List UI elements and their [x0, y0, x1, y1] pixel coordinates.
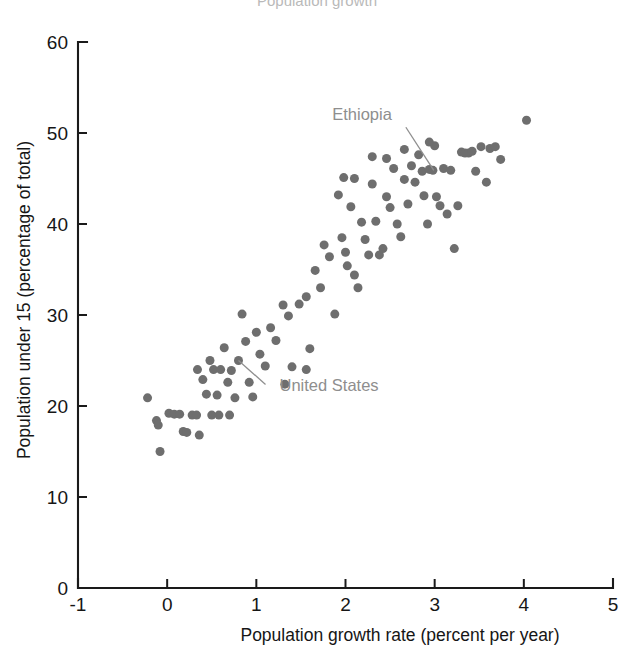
y-tick-label: 60 — [47, 32, 68, 53]
data-point — [316, 283, 325, 292]
data-point — [252, 328, 261, 337]
data-point — [241, 337, 250, 346]
data-point — [337, 233, 346, 242]
data-point — [468, 147, 477, 156]
data-point — [213, 391, 222, 400]
data-point — [453, 201, 462, 210]
chart-title-group: Population growth — [257, 0, 377, 9]
data-point — [302, 365, 311, 374]
annotation-label: United States — [280, 376, 379, 394]
y-axis-ticks: 0102030405060 — [47, 32, 87, 599]
x-axis-title: Population growth rate (percent per year… — [240, 625, 559, 645]
x-axis-ticks: -1012345 — [70, 579, 619, 615]
data-point — [343, 261, 352, 270]
data-point — [425, 138, 434, 147]
data-point — [450, 244, 459, 253]
data-point — [223, 378, 232, 387]
data-point — [364, 250, 373, 259]
data-point — [436, 201, 445, 210]
data-point — [227, 366, 236, 375]
chart-title: Population growth — [257, 0, 377, 9]
annotation-label: Ethiopia — [332, 105, 392, 123]
data-point — [443, 209, 452, 218]
data-point — [396, 232, 405, 241]
data-point — [288, 362, 297, 371]
data-point — [361, 235, 370, 244]
data-point — [330, 310, 339, 319]
data-point — [350, 174, 359, 183]
y-axis-title: Population under 15 (percentage of total… — [14, 141, 34, 459]
data-point — [220, 343, 229, 352]
data-point — [175, 410, 184, 419]
data-points-group — [143, 116, 531, 456]
y-tick-label: 30 — [47, 305, 68, 326]
x-tick-label: 3 — [429, 594, 440, 615]
x-tick-label: 5 — [608, 594, 619, 615]
data-point — [371, 217, 380, 226]
y-tick-label: 0 — [57, 578, 68, 599]
data-point — [192, 411, 201, 420]
x-tick-label: 0 — [162, 594, 173, 615]
data-point — [305, 344, 314, 353]
data-point — [419, 191, 428, 200]
data-point — [496, 155, 505, 164]
data-point — [357, 218, 366, 227]
data-point — [368, 179, 377, 188]
data-point — [198, 375, 207, 384]
data-point — [346, 202, 355, 211]
data-point — [339, 173, 348, 182]
data-point — [202, 390, 211, 399]
chart-canvas: Population growth -1012345 0102030405060… — [0, 0, 634, 652]
y-tick-label: 50 — [47, 123, 68, 144]
x-tick-label: -1 — [70, 594, 87, 615]
data-point — [432, 192, 441, 201]
y-tick-label: 40 — [47, 214, 68, 235]
data-point — [238, 310, 247, 319]
data-point — [403, 199, 412, 208]
data-point — [400, 175, 409, 184]
data-point — [446, 166, 455, 175]
data-point — [156, 447, 165, 456]
data-point — [216, 365, 225, 374]
y-tick-label: 10 — [47, 487, 68, 508]
data-point — [255, 350, 264, 359]
data-point — [245, 378, 254, 387]
data-point — [266, 323, 275, 332]
data-point — [320, 240, 329, 249]
data-point — [423, 220, 432, 229]
data-point — [350, 270, 359, 279]
data-point — [225, 411, 234, 420]
data-point — [207, 411, 216, 420]
x-tick-label: 4 — [519, 594, 530, 615]
data-point — [341, 248, 350, 257]
data-point — [193, 365, 202, 374]
data-point — [284, 311, 293, 320]
data-point — [279, 300, 288, 309]
data-point — [325, 252, 334, 261]
data-point — [386, 203, 395, 212]
data-point — [302, 292, 311, 301]
axes-group — [78, 42, 613, 588]
data-point — [389, 164, 398, 173]
data-point — [482, 178, 491, 187]
data-point — [491, 142, 500, 151]
data-point — [353, 283, 362, 292]
data-point — [522, 116, 531, 125]
y-tick-label: 20 — [47, 396, 68, 417]
data-point — [248, 392, 257, 401]
data-point — [182, 428, 191, 437]
data-point — [393, 220, 402, 229]
data-point — [261, 361, 270, 370]
data-point — [477, 142, 486, 151]
data-point — [382, 192, 391, 201]
data-point — [271, 336, 280, 345]
data-point — [400, 145, 409, 154]
x-tick-label: 1 — [251, 594, 262, 615]
data-point — [407, 161, 416, 170]
data-point — [411, 178, 420, 187]
data-point — [311, 266, 320, 275]
data-point — [154, 421, 163, 430]
data-point — [195, 431, 204, 440]
data-point — [205, 356, 214, 365]
data-point — [378, 244, 387, 253]
